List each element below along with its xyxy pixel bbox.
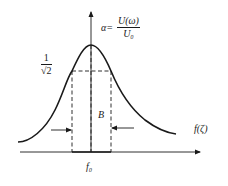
center-frequency-label: f₀ (86, 162, 92, 172)
y-axis-label-lhs: α= (101, 23, 113, 33)
resonance-curve-diagram (0, 0, 228, 186)
y-axis-denominator: U₀ (123, 29, 134, 39)
half-power-denominator: √2 (41, 66, 52, 76)
bandwidth-label: B (98, 110, 104, 120)
x-axis-label: f(ζ) (194, 124, 208, 134)
half-power-label: 1 √2 (41, 53, 52, 76)
half-power-numerator: 1 (43, 53, 50, 63)
y-axis-label-fraction: U(ω) U₀ (117, 16, 140, 39)
y-axis-numerator: U(ω) (117, 16, 140, 26)
